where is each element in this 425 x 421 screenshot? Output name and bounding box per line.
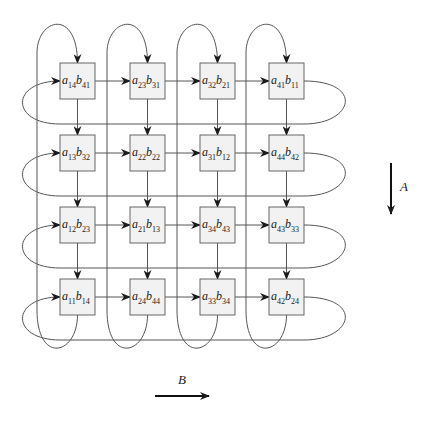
processing-cell: a23b31 [130,63,165,99]
b-arrow-label: B [178,372,186,387]
processing-cell: a31b12 [200,135,235,171]
systolic-array-diagram: a14b41a23b31a32b21a41b11a13b32a22b22a31b… [0,0,425,421]
processing-cells: a14b41a23b31a32b21a41b11a13b32a22b22a31b… [60,63,304,315]
processing-cell: a11b14 [60,279,95,315]
a-direction-indicator: A [391,163,408,214]
processing-cell: a22b22 [130,135,165,171]
processing-cell: a24b44 [130,279,165,315]
processing-cell: a12b23 [60,207,95,243]
processing-cell: a41b11 [269,63,304,99]
processing-cell: a32b21 [200,63,235,99]
processing-cell: a14b41 [60,63,95,99]
a-arrow-label: A [399,179,408,194]
processing-cell: a42b24 [269,279,304,315]
processing-cell: a43b33 [269,207,304,243]
processing-cell: a33b34 [200,279,235,315]
processing-cell: a44b42 [269,135,304,171]
processing-cell: a21b13 [130,207,165,243]
processing-cell: a34b43 [200,207,235,243]
b-direction-indicator: B [155,372,209,396]
processing-cell: a13b32 [60,135,95,171]
